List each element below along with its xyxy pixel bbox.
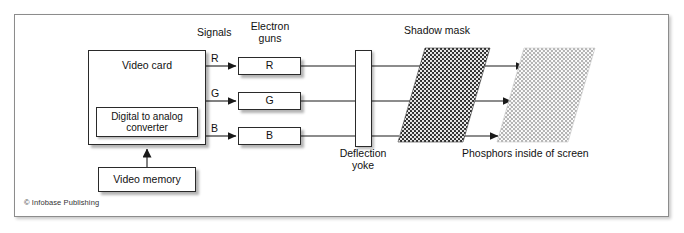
diagram-canvas: Video card Digital to analog converter V… xyxy=(0,0,684,233)
signal-g-label: G xyxy=(211,88,219,100)
electron-gun-r-box[interactable]: R xyxy=(238,57,301,75)
phosphors-label: Phosphors inside of screen xyxy=(462,148,589,160)
phosphor-screen-shape xyxy=(497,48,595,142)
shadow-mask-label: Shadow mask xyxy=(404,25,470,37)
electron-guns-label: Electron guns xyxy=(240,21,300,45)
video-card-label: Video card xyxy=(122,60,172,72)
electron-gun-b-label: B xyxy=(266,130,273,142)
digital-to-analog-converter-box[interactable]: Digital to analog converter xyxy=(96,107,198,137)
deflection-yoke-box[interactable] xyxy=(355,50,372,147)
dac-label: Digital to analog converter xyxy=(111,111,183,133)
signal-r-label: R xyxy=(211,53,219,65)
electron-gun-g-label: G xyxy=(265,95,273,107)
video-memory-label: Video memory xyxy=(113,174,181,186)
electron-gun-g-box[interactable]: G xyxy=(238,92,301,110)
video-memory-box[interactable]: Video memory xyxy=(98,167,196,192)
electron-gun-r-label: R xyxy=(266,60,274,72)
deflection-yoke-label: Deflection yoke xyxy=(334,148,392,172)
shadow-mask-panel xyxy=(398,48,490,144)
signals-label: Signals xyxy=(197,27,231,39)
signal-b-label: B xyxy=(211,123,218,135)
electron-gun-b-box[interactable]: B xyxy=(238,127,301,145)
phosphor-screen-panel xyxy=(497,48,597,144)
copyright-notice: © Infobase Publishing xyxy=(24,198,99,207)
